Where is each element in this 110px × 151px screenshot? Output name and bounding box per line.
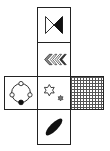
chevrons-icon — [38, 43, 70, 76]
face-chevrons — [37, 42, 71, 77]
stars-icon — [38, 77, 70, 109]
ellipse-icon — [38, 110, 70, 144]
face-center-stars — [37, 76, 71, 110]
face-right-grid — [70, 76, 104, 110]
bowtie-icon — [38, 8, 70, 42]
face-bottom-ellipse — [37, 109, 71, 145]
face-top-bowtie — [37, 7, 71, 43]
circle-nodes-icon — [5, 77, 37, 109]
face-left-circle-nodes — [4, 76, 38, 110]
